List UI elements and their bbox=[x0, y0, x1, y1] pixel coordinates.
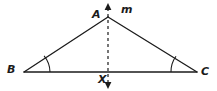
segment-AB bbox=[24, 17, 108, 72]
geometry-figure: A m B C X bbox=[0, 0, 217, 91]
triangle-ABC bbox=[24, 17, 197, 72]
vertex-label-C: C bbox=[201, 66, 209, 77]
vertex-label-B: B bbox=[7, 64, 15, 75]
geometry-diagram bbox=[0, 0, 217, 91]
line-label-m: m bbox=[121, 4, 132, 15]
point-label-X: X bbox=[98, 74, 106, 85]
arrow-up-icon bbox=[105, 3, 112, 10]
segment-AC bbox=[108, 17, 197, 72]
vertex-label-A: A bbox=[92, 9, 101, 20]
